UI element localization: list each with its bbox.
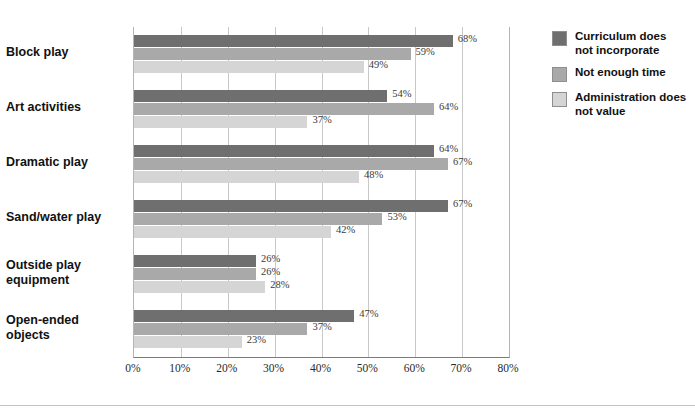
legend-swatch-icon xyxy=(552,31,567,46)
bar-value-label: 37% xyxy=(312,114,331,125)
bar-row: 37% xyxy=(134,323,509,335)
bar-group: 26%26%28% xyxy=(134,253,509,297)
bar-chart-figure: Block playArt activitiesDramatic playSan… xyxy=(0,0,695,412)
bar-value-label: 67% xyxy=(453,156,472,167)
bar[interactable] xyxy=(134,336,242,348)
bar[interactable] xyxy=(134,35,453,47)
bar-row: 67% xyxy=(134,200,509,212)
bar[interactable] xyxy=(134,116,307,128)
bar-value-label: 49% xyxy=(369,59,388,70)
bar-value-label: 47% xyxy=(359,308,378,319)
page-divider xyxy=(0,405,695,406)
bar-value-label: 26% xyxy=(261,253,280,264)
bar-value-label: 28% xyxy=(270,279,289,290)
bar-groups: 68%59%49%54%64%37%64%67%48%67%53%42%26%2… xyxy=(134,27,509,357)
bar-row: 53% xyxy=(134,213,509,225)
plot-area: 68%59%49%54%64%37%64%67%48%67%53%42%26%2… xyxy=(133,27,510,358)
category-label: Art activities xyxy=(6,100,117,115)
legend-label: Not enough time xyxy=(575,66,666,80)
bar[interactable] xyxy=(134,323,307,335)
legend-label: Curriculum does not incorporate xyxy=(575,30,687,57)
legend-item[interactable]: Administration does not value xyxy=(552,91,692,118)
legend-label: Administration does not value xyxy=(575,91,687,118)
bar-value-label: 67% xyxy=(453,198,472,209)
x-axis-tick-label: 80% xyxy=(497,362,518,374)
bar-value-label: 59% xyxy=(416,46,435,57)
bar-value-label: 26% xyxy=(261,266,280,277)
bar-row: 49% xyxy=(134,61,509,73)
x-axis-tick-label: 60% xyxy=(404,362,425,374)
bar-value-label: 37% xyxy=(312,321,331,332)
bar-value-label: 68% xyxy=(458,33,477,44)
bar-group: 54%64%37% xyxy=(134,88,509,132)
category-label: Block play xyxy=(6,45,117,60)
bar-row: 42% xyxy=(134,226,509,238)
bar-row: 26% xyxy=(134,268,509,280)
x-axis-tick-label: 30% xyxy=(263,362,284,374)
bar[interactable] xyxy=(134,268,256,280)
chart-title xyxy=(133,0,513,1)
bar-row: 59% xyxy=(134,48,509,60)
bar-group: 64%67%48% xyxy=(134,143,509,187)
category-label: Dramatic play xyxy=(6,155,117,170)
bar-row: 68% xyxy=(134,35,509,47)
bar[interactable] xyxy=(134,158,448,170)
bar-row: 26% xyxy=(134,255,509,267)
x-axis-tick-label: 50% xyxy=(357,362,378,374)
legend-item[interactable]: Not enough time xyxy=(552,66,692,82)
bar-value-label: 54% xyxy=(392,88,411,99)
bar-row: 67% xyxy=(134,158,509,170)
category-label: Open-ended objects xyxy=(6,313,117,343)
bar-row: 23% xyxy=(134,336,509,348)
bar-value-label: 42% xyxy=(336,224,355,235)
bar-value-label: 64% xyxy=(439,101,458,112)
bar[interactable] xyxy=(134,226,331,238)
bar[interactable] xyxy=(134,61,364,73)
bar-value-label: 48% xyxy=(364,169,383,180)
bar-value-label: 23% xyxy=(247,334,266,345)
x-axis-tick-label: 0% xyxy=(125,362,140,374)
legend-item[interactable]: Curriculum does not incorporate xyxy=(552,30,692,57)
category-axis-labels: Block playArt activitiesDramatic playSan… xyxy=(0,27,125,357)
legend-swatch-icon xyxy=(552,92,567,107)
bar-value-label: 64% xyxy=(439,143,458,154)
bar[interactable] xyxy=(134,103,434,115)
bar-group: 47%37%23% xyxy=(134,308,509,352)
bar-value-label: 53% xyxy=(387,211,406,222)
bar-group: 67%53%42% xyxy=(134,198,509,242)
bar-row: 48% xyxy=(134,171,509,183)
category-label: Sand/water play xyxy=(6,210,117,225)
bar[interactable] xyxy=(134,171,359,183)
category-label: Outside play equipment xyxy=(6,258,117,288)
bar-group: 68%59%49% xyxy=(134,33,509,77)
bar[interactable] xyxy=(134,281,265,293)
x-axis-tick-label: 70% xyxy=(451,362,472,374)
bar[interactable] xyxy=(134,145,434,157)
legend-swatch-icon xyxy=(552,67,567,82)
value-axis-labels: 0%10%20%30%40%50%60%70%80% xyxy=(133,362,508,382)
chart-legend: Curriculum does not incorporateNot enoug… xyxy=(552,30,692,127)
bar[interactable] xyxy=(134,255,256,267)
x-axis-tick-label: 20% xyxy=(216,362,237,374)
bar[interactable] xyxy=(134,90,387,102)
bar-row: 28% xyxy=(134,281,509,293)
x-axis-tick-label: 10% xyxy=(169,362,190,374)
bar-row: 37% xyxy=(134,116,509,128)
x-axis-tick-label: 40% xyxy=(310,362,331,374)
